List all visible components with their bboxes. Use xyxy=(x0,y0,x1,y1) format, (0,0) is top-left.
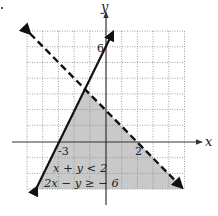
tick-label-2: 2 xyxy=(135,145,142,158)
x-axis-label: x xyxy=(205,134,213,149)
inequality-graph: y x -3 2 6 x + y < 2 2x − y ≥ − 6 xyxy=(0,0,218,216)
tick-label-6: 6 xyxy=(97,42,104,55)
y-axis-label: y xyxy=(100,0,109,14)
tick-label-neg3: -3 xyxy=(58,145,69,158)
inequality-2-label: 2x − y ≥ − 6 xyxy=(43,176,119,190)
inequality-1-label: x + y < 2 xyxy=(53,161,107,175)
